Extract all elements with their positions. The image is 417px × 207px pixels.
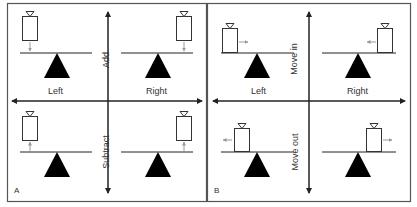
panel-a-left-label: Left — [48, 86, 63, 96]
diagram-canvas — [0, 0, 417, 207]
weight-box-icon — [23, 117, 38, 141]
weight-hook-icon — [370, 124, 378, 129]
weight-box-icon — [223, 29, 238, 53]
weight-hook-icon — [26, 112, 34, 117]
weight-box-icon — [177, 117, 192, 141]
panel-a-bottom-left-balance — [20, 112, 92, 178]
fulcrum-icon — [145, 53, 171, 78]
panel-a-bottom-right-balance — [121, 112, 193, 178]
panel-a-add-label: Add — [101, 40, 111, 80]
weight-box-icon — [367, 129, 382, 152]
weight-hook-icon — [26, 12, 34, 17]
fulcrum-icon — [244, 152, 270, 177]
fulcrum-icon — [345, 53, 371, 78]
panel-b-move-out-label: Move out — [290, 127, 300, 177]
fulcrum-icon — [244, 53, 270, 78]
weight-hook-icon — [180, 112, 188, 117]
panel-a-right-label: Right — [146, 86, 167, 96]
fulcrum-icon — [44, 53, 70, 78]
weight-box-icon — [378, 29, 393, 53]
weight-hook-icon — [180, 12, 188, 17]
panel-a-top-left-balance — [20, 12, 92, 79]
panel-b-top-right-balance — [322, 24, 396, 79]
weight-hook-icon — [381, 24, 389, 29]
panel-b-bottom-left-balance — [221, 124, 294, 178]
panel-b-left-label: Left — [251, 86, 266, 96]
panel-b-move-in-label: Move in — [289, 37, 299, 81]
panel-a-top-right-balance — [121, 12, 193, 79]
weight-hook-icon — [226, 24, 234, 29]
panel-b — [213, 12, 405, 193]
fulcrum-icon — [44, 152, 70, 177]
panel-a-letter: A — [14, 186, 19, 195]
fulcrum-icon — [345, 152, 371, 177]
weight-hook-icon — [238, 124, 246, 129]
panel-b-letter: B — [214, 186, 219, 195]
panel-b-bottom-right-balance — [322, 124, 396, 178]
balance-diagram-figure: Left Right Add Subtract A Left Right Mov… — [0, 0, 417, 207]
panel-a-subtract-label: Subtract — [101, 125, 111, 179]
fulcrum-icon — [145, 152, 171, 177]
weight-box-icon — [177, 17, 192, 41]
panel-b-right-label: Right — [347, 86, 368, 96]
panel-b-top-left-balance — [221, 24, 294, 79]
weight-box-icon — [23, 17, 38, 41]
weight-box-icon — [235, 129, 250, 152]
